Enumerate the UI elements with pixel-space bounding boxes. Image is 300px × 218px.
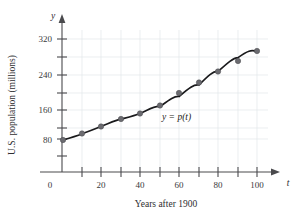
grid-lines — [62, 30, 268, 168]
x-axis-tick-labels: 0 20 40 60 80 100 — [48, 180, 265, 190]
y-tick-label-320: 320 — [39, 34, 53, 44]
y-axis-symbol: y — [50, 11, 56, 21]
data-point-0 — [60, 137, 65, 142]
y-tick-label-160: 160 — [39, 105, 53, 115]
data-point-20 — [98, 124, 103, 129]
population-chart-figure: 320 240 160 80 0 20 40 60 80 100 y t Yea… — [0, 0, 300, 218]
x-tick-label-100: 100 — [250, 180, 264, 190]
x-tick-label-60: 60 — [175, 180, 185, 190]
data-point-30 — [118, 116, 123, 121]
y-axis-caption: U.S. population (millions) — [7, 55, 18, 155]
curve-annotation-label: y = p(t) — [161, 112, 191, 123]
x-axis-caption: Years after 1900 — [135, 199, 198, 209]
x-tick-label-40: 40 — [136, 180, 146, 190]
data-point-40 — [137, 111, 142, 116]
chart-canvas: 320 240 160 80 0 20 40 60 80 100 y t Yea… — [0, 0, 300, 218]
x-tick-label-80: 80 — [214, 180, 224, 190]
data-point-70 — [196, 80, 201, 85]
x-tick-label-0: 0 — [48, 180, 53, 190]
data-point-60 — [176, 90, 181, 95]
x-axis-symbol: t — [287, 178, 290, 188]
x-tick-label-20: 20 — [97, 180, 107, 190]
data-point-50 — [157, 103, 162, 108]
y-axis-tick-labels: 320 240 160 80 — [39, 34, 53, 145]
data-point-90 — [235, 58, 240, 63]
data-point-100 — [254, 48, 259, 53]
x-axis-arrow-icon — [271, 169, 280, 176]
data-point-10 — [79, 131, 84, 136]
y-tick-label-240: 240 — [39, 70, 53, 80]
y-tick-label-80: 80 — [43, 135, 53, 145]
y-axis-arrow-icon — [59, 14, 66, 23]
data-point-80 — [215, 69, 220, 74]
